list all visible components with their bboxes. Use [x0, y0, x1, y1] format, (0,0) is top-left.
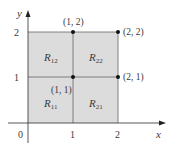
- y-axis-arrow-icon: [26, 10, 31, 17]
- x-axis-label: x: [155, 128, 161, 140]
- point-1-2: [71, 30, 75, 34]
- x-tick-1: 1: [70, 129, 75, 140]
- y-tick-2: 2: [14, 27, 19, 38]
- y-tick-1: 1: [14, 72, 19, 83]
- x-axis-arrow-icon: [159, 121, 166, 126]
- point-label-1-1: (1, 1): [51, 85, 72, 96]
- point-1-1: [71, 75, 75, 79]
- point-2-2: [116, 30, 120, 34]
- point-2-1: [116, 75, 120, 79]
- x-tick-2: 2: [115, 129, 120, 140]
- double-integral-partition-diagram: y x 0 1 2 1 2 R12 R22 R11 R21 (1, 2) (2,…: [0, 0, 174, 150]
- point-label-2-1: (2, 1): [123, 72, 144, 83]
- origin-label: 0: [18, 129, 23, 140]
- y-axis-label: y: [16, 7, 22, 19]
- point-label-1-2: (1, 2): [63, 17, 84, 28]
- point-label-2-2: (2, 2): [123, 27, 144, 38]
